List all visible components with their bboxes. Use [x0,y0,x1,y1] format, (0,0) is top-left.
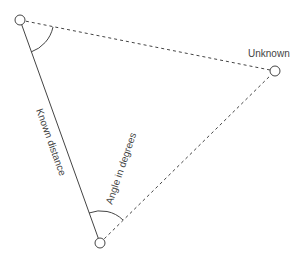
known-distance-label: Known distance [34,107,68,178]
point-a-marker [15,15,25,25]
angle-arc-bottom [89,211,123,220]
point-c-marker [95,238,105,248]
point-b-marker [270,66,280,76]
unknown-label: Unknown [248,48,290,59]
dashed-line-top [20,20,275,71]
triangulation-diagram: Unknown Known distance Angle in degrees [0,0,302,260]
known-distance-line [20,20,100,243]
angle-label: Angle in degrees [103,131,138,206]
angle-arc-top [31,27,53,52]
